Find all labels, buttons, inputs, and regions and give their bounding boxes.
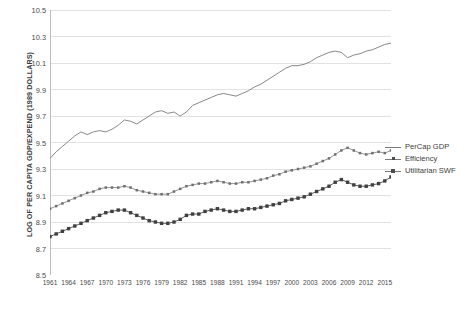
legend-swatch-line-square-icon: [384, 166, 402, 176]
x-axis-tick-label: 2003: [303, 279, 318, 286]
x-axis-tick-label: 2006: [322, 279, 337, 286]
x-axis-tick-label: 2012: [359, 279, 374, 286]
y-axis-tick-label: 9.3: [4, 165, 50, 174]
y-axis-tick-label: 8.9: [4, 218, 50, 227]
x-axis-tick-label: 1991: [229, 279, 244, 286]
plot-svg: [50, 10, 391, 275]
x-axis-tick-label: 1988: [210, 279, 225, 286]
x-axis-tick-label: 1961: [43, 279, 58, 286]
legend-label: Utilitarian SWF: [405, 166, 456, 176]
x-axis-tick-label: 1973: [117, 279, 132, 286]
y-axis-tick-label: 9.9: [4, 85, 50, 94]
x-axis-tick-label: 1967: [80, 279, 95, 286]
x-axis-tick-label: 1994: [247, 279, 262, 286]
x-axis-tick-label: 1997: [266, 279, 281, 286]
legend-swatch-line-dot-icon: [384, 154, 402, 164]
y-axis-tick-label: 10.5: [4, 6, 50, 15]
x-axis-tick-label: 2015: [377, 279, 392, 286]
legend-label: PerCap GDP: [405, 142, 449, 152]
x-axis-tick-label: 2009: [340, 279, 355, 286]
chart-legend: PerCap GDP Efficiency Utilitarian SWF: [384, 141, 456, 177]
y-axis-tick-label: 9.7: [4, 112, 50, 121]
y-axis-tick-label: 10.3: [4, 32, 50, 41]
y-axis-tick-labels: 8.58.78.99.19.39.59.79.910.110.310.5: [0, 10, 50, 275]
legend-label: Efficiency: [405, 154, 437, 164]
plot-area: [50, 10, 391, 275]
y-axis-tick-label: 8.7: [4, 244, 50, 253]
y-axis-tick-label: 9.1: [4, 191, 50, 200]
legend-item-utilitarian-swf[interactable]: Utilitarian SWF: [384, 165, 456, 177]
legend-item-efficiency[interactable]: Efficiency: [384, 153, 456, 165]
x-axis-tick-label: 2000: [284, 279, 299, 286]
x-axis-tick-label: 1985: [191, 279, 206, 286]
y-axis-tick-label: 9.5: [4, 138, 50, 147]
chart-container: LOG OF PER CAPITA GDP/EXPEND (1989 DOLLA…: [0, 0, 465, 318]
x-axis-tick-label: 1964: [61, 279, 76, 286]
legend-swatch-line-icon: [384, 142, 402, 152]
x-axis-tick-label: 1982: [173, 279, 188, 286]
x-axis-tick-label: 1976: [136, 279, 151, 286]
x-axis-tick-labels: 1961196419671970197319761979198219851988…: [50, 277, 391, 295]
y-axis-tick-label: 10.1: [4, 59, 50, 68]
x-axis-tick-label: 1970: [98, 279, 113, 286]
legend-item-percap-gdp[interactable]: PerCap GDP: [384, 141, 456, 153]
x-axis-tick-label: 1979: [154, 279, 169, 286]
